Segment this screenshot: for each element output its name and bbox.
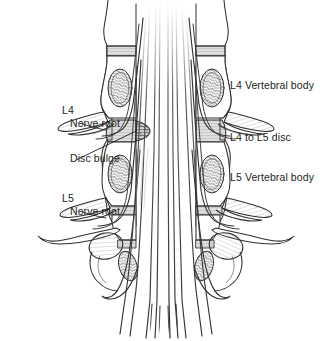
label-disc-bulge-text: Disc bulge	[8, 152, 120, 165]
left-l4-pedicle-oval	[108, 69, 132, 107]
label-l4-nerve-root: L4 Nerve root	[16, 104, 120, 130]
label-l5-vertebral-body: L5 Vertebral body	[230, 171, 314, 184]
right-l4l5-disc	[196, 120, 226, 142]
label-l5-nerve-root-line2: Nerve root	[16, 205, 120, 218]
label-l5-nerve-root: L5 Nerve root	[16, 192, 120, 218]
label-l4-nerve-root-line1: L4	[16, 104, 120, 117]
label-l5-nerve-root-line1: L5	[16, 192, 120, 205]
right-l5-pedicle-oval	[200, 155, 224, 193]
label-disc-bulge: Disc bulge	[8, 152, 120, 165]
spine-diagram-figure: L4 Nerve root Disc bulge L5 Nerve root L…	[0, 0, 332, 341]
left-upper-endplate-disc	[107, 46, 136, 56]
label-l4-vertebral-body: L4 Vertebral body	[230, 79, 314, 92]
label-l4-to-l5-disc: L4 to L5 disc	[230, 131, 291, 144]
right-l4-pedicle-oval	[200, 69, 224, 107]
label-l4-nerve-root-line2: Nerve root	[16, 117, 120, 130]
right-upper-endplate-disc	[196, 46, 225, 56]
